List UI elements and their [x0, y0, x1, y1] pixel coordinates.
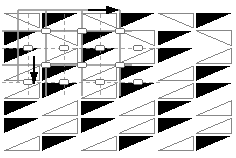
tessellation-artwork — [0, 0, 236, 158]
node-marker-node-4 — [41, 62, 51, 68]
drawing-canvas — [0, 0, 236, 158]
node-marker-node-2 — [77, 28, 87, 34]
node-marker-node-7 — [23, 45, 33, 51]
node-marker-node-1 — [41, 28, 51, 34]
node-marker-node-10 — [133, 45, 143, 51]
node-marker-node-12 — [59, 79, 69, 85]
node-marker-node-14 — [133, 79, 143, 85]
node-marker-node-5 — [77, 62, 87, 68]
node-marker-node-3 — [115, 28, 125, 34]
node-marker-node-11 — [23, 79, 33, 85]
node-marker-node-6 — [115, 62, 125, 68]
node-marker-node-8 — [59, 45, 69, 51]
node-marker-node-9 — [95, 45, 105, 51]
node-marker-node-13 — [95, 79, 105, 85]
